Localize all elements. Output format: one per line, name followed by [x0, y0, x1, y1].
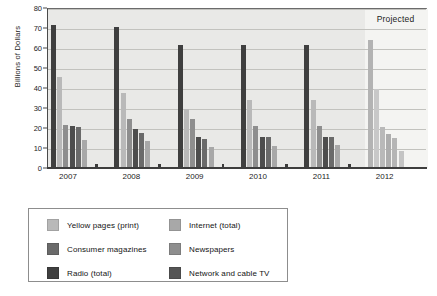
legend-swatch: [47, 243, 59, 255]
x-tick-label: 2012: [376, 172, 394, 181]
bar: [392, 138, 397, 168]
x-axis-line: [47, 167, 427, 169]
bar: [253, 126, 258, 168]
legend-item[interactable]: Consumer magazines: [47, 242, 147, 256]
legend-label: Consumer magazines: [67, 245, 147, 254]
x-tick-label: 2011: [313, 172, 330, 181]
bar: [323, 137, 328, 168]
y-tick-label: 10: [34, 144, 42, 153]
bar: [76, 127, 81, 168]
y-tick-mark: [43, 88, 47, 89]
bar: [202, 139, 207, 168]
y-tick-label: 80: [34, 4, 42, 13]
bar: [247, 100, 252, 168]
bar: [114, 27, 119, 168]
bar: [145, 141, 150, 168]
bar: [196, 137, 201, 168]
bar: [133, 129, 138, 168]
y-tick-label: 60: [34, 44, 42, 53]
bar: [209, 147, 214, 168]
bar: [70, 126, 75, 168]
bar: [241, 45, 246, 168]
bar: [184, 109, 189, 168]
legend-label: Yellow pages (print): [67, 221, 139, 230]
bar-group: [178, 9, 214, 168]
bar-group: [114, 9, 150, 168]
bar: [304, 45, 309, 168]
bar: [335, 145, 340, 168]
plot-area: Projected: [47, 8, 427, 168]
y-tick-label: 30: [34, 104, 42, 113]
y-tick-label: 40: [34, 84, 42, 93]
bar: [399, 151, 404, 168]
bar: [272, 146, 277, 168]
y-tick-mark: [43, 108, 47, 109]
bar: [139, 133, 144, 168]
legend-label: Network and cable TV: [189, 269, 270, 278]
bar: [51, 25, 56, 168]
y-tick-mark: [43, 68, 47, 69]
legend-swatch: [47, 267, 59, 279]
y-tick-label: 50: [34, 64, 42, 73]
legend-swatch: [169, 267, 181, 279]
y-axis-title: Billions of Dollars: [13, 2, 22, 112]
y-tick-label: 20: [34, 124, 42, 133]
legend-swatch: [47, 219, 59, 231]
bar: [266, 137, 271, 168]
chart-legend: Yellow pages (print)Consumer magazinesRa…: [28, 208, 288, 282]
y-tick-label: 70: [34, 24, 42, 33]
legend-item[interactable]: Yellow pages (print): [47, 218, 139, 232]
y-axis: 01020304050607080: [20, 8, 42, 168]
x-tick-label: 2008: [122, 172, 140, 181]
chart-figure: 01020304050607080 Billions of Dollars Pr…: [0, 0, 437, 296]
bar-group: [304, 9, 340, 168]
bar: [178, 45, 183, 168]
x-tick-label: 2010: [249, 172, 267, 181]
bar: [260, 137, 265, 168]
legend-item[interactable]: Internet (total): [169, 218, 240, 232]
legend-label: Newspapers: [189, 245, 234, 254]
bar: [311, 100, 316, 168]
bar-group: [241, 9, 277, 168]
legend-item[interactable]: Newspapers: [169, 242, 234, 256]
x-tick-label: 2007: [59, 172, 77, 181]
legend-label: Internet (total): [189, 221, 240, 230]
bar: [329, 137, 334, 168]
y-tick-mark: [43, 168, 47, 169]
bar-group: [51, 9, 87, 168]
bar: [190, 119, 195, 168]
legend-item[interactable]: Network and cable TV: [169, 266, 270, 280]
bar: [127, 119, 132, 168]
bar: [63, 125, 68, 168]
x-tick-label: 2009: [186, 172, 204, 181]
bar: [82, 140, 87, 168]
legend-item[interactable]: Radio (total): [47, 266, 112, 280]
y-tick-mark: [43, 148, 47, 149]
bar: [317, 126, 322, 168]
y-tick-mark: [43, 48, 47, 49]
y-tick-mark: [43, 8, 47, 9]
y-tick-label: 0: [38, 164, 42, 173]
y-tick-mark: [43, 28, 47, 29]
bar: [57, 77, 62, 168]
bar: [380, 127, 385, 168]
bar-group: [368, 9, 404, 168]
legend-swatch: [169, 219, 181, 231]
legend-label: Radio (total): [67, 269, 112, 278]
bars-layer: [48, 9, 426, 168]
bar: [374, 89, 379, 168]
bar: [386, 134, 391, 168]
bar: [368, 40, 373, 168]
legend-swatch: [169, 243, 181, 255]
bar: [121, 93, 126, 168]
projected-annotation: Projected: [377, 14, 415, 24]
y-tick-mark: [43, 128, 47, 129]
